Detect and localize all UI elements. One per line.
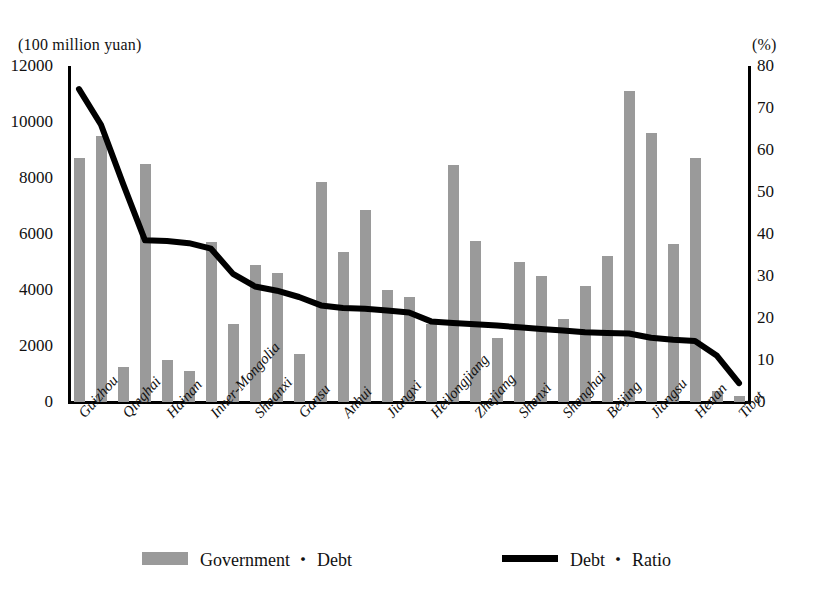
left-axis-tick-label: 6000	[19, 224, 53, 244]
legend-item-government-debt: Government ・ Debt	[142, 545, 352, 571]
right-axis-tick-label: 60	[757, 140, 774, 160]
left-axis-tick-label: 10000	[11, 112, 54, 132]
plot-area	[68, 66, 750, 402]
right-axis-tick-label: 70	[757, 98, 774, 118]
left-axis-tick-label: 4000	[19, 280, 53, 300]
legend-bar-swatch	[142, 552, 188, 565]
right-axis-tick-label: 50	[757, 182, 774, 202]
left-axis-tick-label: 12000	[11, 56, 54, 76]
legend-line-swatch	[502, 555, 558, 562]
legend-item-debt-ratio: Debt ・ Ratio	[502, 545, 671, 571]
left-axis-tick-label: 2000	[19, 336, 53, 356]
chart-container: (100 million yuan) (%) 02000400060008000…	[0, 0, 813, 615]
right-axis-tick-label: 80	[757, 56, 774, 76]
legend-line-label: Debt ・ Ratio	[570, 545, 671, 571]
right-axis-tick-label: 30	[757, 266, 774, 286]
left-axis-tick-label: 8000	[19, 168, 53, 188]
ratio-line-series	[68, 66, 750, 402]
chart-legend: Government ・ Debt Debt ・ Ratio	[0, 545, 813, 571]
right-axis-unit-label: (%)	[752, 36, 777, 54]
left-axis-tick-label: 0	[45, 392, 54, 412]
legend-bar-label: Government ・ Debt	[200, 545, 352, 571]
right-axis-tick-label: 10	[757, 350, 774, 370]
right-axis-tick-label: 20	[757, 308, 774, 328]
right-axis-tick-label: 40	[757, 224, 774, 244]
x-axis-labels: GuizhouQinghaiHainanInner-MongoliaShaanx…	[68, 408, 751, 528]
left-axis-unit-label: (100 million yuan)	[18, 36, 142, 54]
ratio-line-path	[79, 89, 739, 383]
